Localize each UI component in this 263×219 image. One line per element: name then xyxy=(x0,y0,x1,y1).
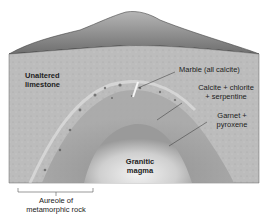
label-garnet-pyroxene: Garnet + pyroxene xyxy=(210,112,254,129)
label-granitic-magma: Granitic magma xyxy=(120,158,160,175)
label-marble: Marble (all calcite) xyxy=(179,66,240,75)
label-calcite-chlorite-serpentine: Calcite + chlorite + serpentine xyxy=(192,84,260,101)
label-unaltered-limestone: Unaltered limestone xyxy=(25,72,60,89)
label-aureole: Aureole of metamorphic rock xyxy=(18,197,94,214)
block-diagram-graphic xyxy=(0,0,263,219)
contact-metamorphism-diagram: Unaltered limestone Marble (all calcite)… xyxy=(0,0,263,219)
aureole-bracket xyxy=(18,188,93,196)
